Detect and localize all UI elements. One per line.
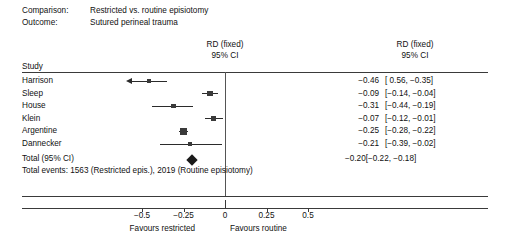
- numeric-column-header-line1: RD (fixed): [345, 40, 485, 51]
- pooled-effect-diamond: [186, 154, 197, 165]
- table-row: Klein−0.07[−0.12, −0.01]: [0, 114, 510, 127]
- table-row: Sleep−0.09[−0.14, −0.04]: [0, 89, 510, 102]
- study-name: Klein: [22, 114, 40, 123]
- axis-tick-label: 0: [205, 211, 245, 220]
- total-label: Total (95% CI): [22, 154, 74, 163]
- study-name: Argentine: [22, 126, 57, 135]
- numeric-column-header-line2: 95% CI: [345, 51, 485, 62]
- table-row: House−0.31[−0.44, −0.19]: [0, 101, 510, 114]
- study-name: House: [22, 101, 46, 110]
- study-name: Dannecker: [22, 139, 62, 148]
- total-events: Total events: 1563 (Restricted epis.), 2…: [22, 166, 253, 175]
- favours-left-label: Favours restricted: [130, 224, 196, 233]
- axis-tick-label: 0.25: [247, 211, 287, 220]
- study-name: Sleep: [22, 89, 43, 98]
- study-estimate: −0.25[−0.28, −0.22]: [345, 126, 487, 135]
- total-confidence-interval: [−0.22, −0.18]: [366, 154, 417, 163]
- study-name: Harrison: [22, 76, 53, 85]
- axis-tick-label: −0.5: [122, 211, 162, 220]
- outcome-label: Outcome:: [22, 17, 90, 29]
- axis-tick: [225, 200, 226, 209]
- outcome-row: Outcome: Sutured perineal trauma: [22, 17, 208, 29]
- axis-tick-label: 0.5: [288, 211, 328, 220]
- study-estimate: −0.07[−0.12, −0.01]: [345, 114, 487, 123]
- confidence-interval: [−0.12, −0.01]: [385, 114, 436, 123]
- table-row: Argentine−0.25[−0.28, −0.22]: [0, 126, 510, 139]
- confidence-interval: [−0.14, −0.04]: [385, 89, 436, 98]
- outcome-value: Sutured perineal trauma: [90, 17, 178, 29]
- plot-column-header: RD (fixed) 95% CI: [160, 40, 290, 61]
- study-estimate: −0.31[−0.44, −0.19]: [345, 101, 487, 110]
- plot-column-header-line2: 95% CI: [160, 51, 290, 62]
- estimate-value: −0.07: [345, 114, 379, 123]
- table-row: Dannecker−0.21[−0.39, −0.02]: [0, 139, 510, 152]
- confidence-interval: [ 0.56, −0.35]: [385, 76, 433, 85]
- estimate-value: −0.09: [345, 89, 379, 98]
- comparison-row: Comparison: Restricted vs. routine episi…: [22, 5, 208, 17]
- confidence-interval: [−0.44, −0.19]: [385, 101, 436, 110]
- study-estimate: −0.46[ 0.56, −0.35]: [345, 76, 487, 85]
- estimate-value: −0.46: [345, 76, 379, 85]
- table-row: Harrison−0.46[ 0.56, −0.35]: [0, 76, 510, 89]
- x-axis: [22, 208, 488, 209]
- numeric-column-header: RD (fixed) 95% CI: [345, 40, 485, 61]
- estimate-value: −0.21: [345, 139, 379, 148]
- total-estimate-value: −0.20: [345, 154, 366, 163]
- plot-column-header-line1: RD (fixed): [160, 40, 290, 51]
- study-rows: Harrison−0.46[ 0.56, −0.35]Sleep−0.09[−0…: [0, 76, 510, 152]
- study-column-header: Study: [22, 62, 43, 71]
- footer-divider: [22, 196, 488, 197]
- figure-meta: Comparison: Restricted vs. routine episi…: [22, 5, 208, 28]
- study-estimate: −0.21[−0.39, −0.02]: [345, 139, 487, 148]
- comparison-value: Restricted vs. routine episiotomy: [90, 5, 208, 17]
- axis-tick-label: −0.25: [164, 211, 204, 220]
- estimate-value: −0.31: [345, 101, 379, 110]
- favours-right-label: Favours routine: [230, 224, 287, 233]
- confidence-interval: [−0.28, −0.22]: [385, 126, 436, 135]
- comparison-label: Comparison:: [22, 5, 90, 17]
- estimate-value: −0.25: [345, 126, 379, 135]
- forest-plot-figure: Comparison: Restricted vs. routine episi…: [0, 0, 510, 243]
- header-divider: [22, 72, 488, 73]
- study-estimate: −0.09[−0.14, −0.04]: [345, 89, 487, 98]
- total-estimate: −0.20[−0.22, −0.18]: [345, 154, 487, 163]
- confidence-interval: [−0.39, −0.02]: [385, 139, 436, 148]
